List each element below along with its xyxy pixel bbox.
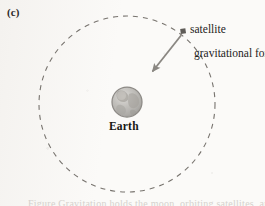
- gravitational-force-arrow: [153, 35, 182, 71]
- earth-label: Earth: [109, 121, 139, 133]
- satellite-orbit-figure: (c) satellite gravitational force Earth …: [0, 0, 265, 206]
- panel-label: (c): [7, 7, 20, 18]
- satellite-marker: [180, 28, 186, 34]
- gravitational-force-label: gravitational force: [194, 48, 265, 60]
- earth-globe: [112, 87, 142, 117]
- caption-fragment: Figure Gravitation holds the moon, orbit…: [28, 199, 265, 206]
- satellite-label: satellite: [190, 24, 226, 36]
